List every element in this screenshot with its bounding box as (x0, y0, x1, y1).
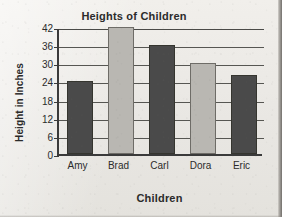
y-tick-label-6: 6 (31, 132, 53, 143)
bar-group (223, 27, 264, 154)
bar-group (59, 27, 100, 154)
chart-title: Heights of Children (0, 10, 268, 22)
y-tick-label-12: 12 (31, 114, 53, 125)
bar-group (182, 27, 223, 154)
bar-brad (108, 27, 134, 154)
x-tick-label-carl: Carl (139, 160, 180, 171)
bar-series (59, 27, 264, 154)
y-tick-0 (54, 156, 59, 157)
x-tick-label-brad: Brad (98, 160, 139, 171)
y-tick-label-42: 42 (31, 23, 53, 34)
y-tick-label-30: 30 (31, 59, 53, 70)
y-tick-label-18: 18 (31, 96, 53, 107)
bar-group (100, 27, 141, 154)
bar-eric (231, 75, 257, 154)
y-axis-tick-labels: 42363024181260 (29, 29, 53, 156)
x-axis-title: Children (57, 192, 262, 204)
scan-bottom-edge (0, 215, 282, 217)
bar-dora (190, 63, 216, 154)
y-tick-label-0: 0 (31, 150, 53, 161)
y-tick-label-36: 36 (31, 41, 53, 52)
bar-amy (67, 81, 93, 154)
scan-right-edge (278, 0, 282, 217)
x-axis-tick-labels: AmyBradCarlDoraEric (57, 160, 262, 176)
y-tick-label-24: 24 (31, 77, 53, 88)
bar-chart-scan: Heights of Children Height in Inches 423… (0, 0, 282, 217)
x-tick-label-dora: Dora (180, 160, 221, 171)
bar-carl (149, 45, 175, 154)
x-tick-label-eric: Eric (221, 160, 262, 171)
plot-area (57, 29, 262, 156)
bar-group (141, 27, 182, 154)
x-tick-label-amy: Amy (57, 160, 98, 171)
y-axis-title: Height in Inches (14, 43, 25, 163)
